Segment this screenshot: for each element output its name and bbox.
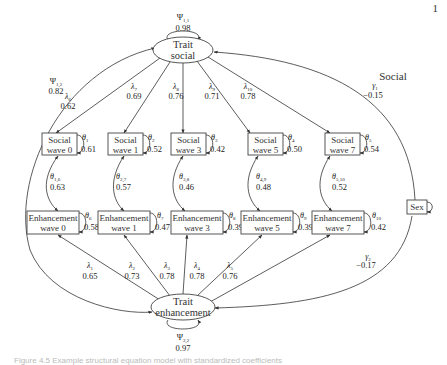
svg-text:Social: Social bbox=[254, 135, 277, 145]
svg-text:θ6: θ6 bbox=[85, 211, 92, 221]
svg-text:θ7: θ7 bbox=[157, 211, 164, 221]
svg-text:θ3: θ3 bbox=[211, 133, 218, 143]
svg-text:Sex: Sex bbox=[410, 202, 424, 212]
svg-text:0.82: 0.82 bbox=[49, 86, 64, 96]
svg-text:Social: Social bbox=[48, 135, 71, 145]
svg-text:λ1: λ1 bbox=[86, 261, 93, 271]
sex-variance-loop bbox=[427, 202, 432, 212]
loading-enh-w3 bbox=[183, 235, 187, 294]
svg-text:θ1: θ1 bbox=[82, 133, 89, 143]
svg-text:0.48: 0.48 bbox=[256, 182, 271, 192]
svg-text:0.63: 0.63 bbox=[50, 182, 65, 192]
svg-text:0.78: 0.78 bbox=[190, 271, 205, 281]
trait-social-node: Ψ1,1 0.98 Trait social bbox=[153, 12, 213, 63]
trait-covariance-label: Ψ1,2 0.82 bbox=[49, 76, 64, 96]
svg-text:λ3: λ3 bbox=[163, 261, 170, 271]
svg-text:wave 1: wave 1 bbox=[113, 145, 139, 155]
svg-text:θ10: θ10 bbox=[372, 211, 381, 221]
sem-diagram: 1 Social Ψ1,1 0.98 Trait so bbox=[0, 0, 447, 365]
svg-text:0.57: 0.57 bbox=[116, 182, 131, 192]
svg-text:0.42: 0.42 bbox=[371, 222, 386, 232]
svg-text:Enhancement: Enhancement bbox=[100, 213, 149, 223]
page-number: 1 bbox=[433, 2, 439, 14]
psi-11-value: 0.98 bbox=[176, 23, 191, 33]
svg-text:0.50: 0.50 bbox=[287, 144, 302, 154]
enhancement-wave-0: Enhancement wave 0 θ6 0.58 λ1 0.65 bbox=[27, 211, 99, 281]
svg-text:0.76: 0.76 bbox=[169, 91, 184, 101]
svg-text:0.71: 0.71 bbox=[205, 91, 220, 101]
svg-text:Enhancement: Enhancement bbox=[173, 213, 222, 223]
svg-text:λ4: λ4 bbox=[193, 261, 200, 271]
svg-text:social: social bbox=[171, 50, 196, 61]
svg-text:θ9: θ9 bbox=[300, 211, 307, 221]
svg-text:0.54: 0.54 bbox=[364, 144, 380, 154]
svg-text:Enhancement: Enhancement bbox=[243, 213, 292, 223]
svg-text:Social: Social bbox=[114, 135, 137, 145]
svg-text:θ8: θ8 bbox=[229, 211, 236, 221]
loading-social-w7 bbox=[208, 57, 330, 133]
gamma-2-value: −0.17 bbox=[356, 260, 376, 270]
svg-text:0.52: 0.52 bbox=[332, 182, 347, 192]
svg-text:0.42: 0.42 bbox=[210, 144, 225, 154]
gamma-1-value: −0.15 bbox=[363, 90, 383, 100]
social-wave-1: Social wave 1 θ2 0.52 λ7 0.69 θ2,7 0.57 bbox=[108, 82, 162, 192]
svg-text:0.78: 0.78 bbox=[241, 91, 256, 101]
svg-text:θ5: θ5 bbox=[365, 133, 372, 143]
social-wave-0: Social wave 0 θ1 0.61 λ6 0.62 θ1,6 0.63 bbox=[42, 92, 96, 192]
svg-text:wave 0: wave 0 bbox=[47, 145, 73, 155]
svg-text:enhancement: enhancement bbox=[155, 307, 210, 318]
trait-enhancement-node: Trait enhancement Ψ2,2 0.97 bbox=[151, 294, 215, 353]
loading-social-w0 bbox=[56, 58, 160, 133]
psi-22-value: 0.97 bbox=[176, 343, 191, 353]
svg-text:0.39: 0.39 bbox=[298, 222, 313, 232]
svg-text:0.58: 0.58 bbox=[84, 222, 99, 232]
sex-node: Sex γ1 −0.15 γ2 −0.17 bbox=[356, 81, 432, 270]
svg-text:θ4: θ4 bbox=[288, 133, 295, 143]
residual-cov-w7 bbox=[320, 156, 332, 211]
svg-text:wave 5: wave 5 bbox=[254, 223, 280, 233]
svg-text:wave 3: wave 3 bbox=[184, 223, 210, 233]
svg-text:λ2: λ2 bbox=[128, 261, 135, 271]
svg-text:Trait: Trait bbox=[173, 39, 193, 50]
svg-text:0.46: 0.46 bbox=[179, 182, 194, 192]
loading-enh-w0 bbox=[58, 235, 160, 300]
svg-text:Trait: Trait bbox=[173, 296, 193, 307]
group-label: Social bbox=[379, 70, 407, 82]
svg-text:0.47: 0.47 bbox=[155, 222, 170, 232]
trait-enhancement-variance-loop bbox=[167, 320, 199, 329]
svg-text:0.61: 0.61 bbox=[81, 144, 96, 154]
svg-text:0.76: 0.76 bbox=[223, 271, 238, 281]
svg-text:wave 5: wave 5 bbox=[253, 145, 279, 155]
svg-text:wave 7: wave 7 bbox=[330, 145, 356, 155]
svg-text:0.69: 0.69 bbox=[127, 91, 142, 101]
svg-text:Social: Social bbox=[177, 135, 200, 145]
svg-text:0.52: 0.52 bbox=[147, 144, 162, 154]
svg-text:0.65: 0.65 bbox=[83, 271, 98, 281]
svg-text:Social: Social bbox=[331, 135, 354, 145]
svg-text:Enhancement: Enhancement bbox=[29, 213, 78, 223]
svg-text:0.62: 0.62 bbox=[61, 101, 76, 111]
svg-text:wave 7: wave 7 bbox=[325, 223, 351, 233]
svg-text:0.78: 0.78 bbox=[160, 271, 175, 281]
svg-text:wave 1: wave 1 bbox=[111, 223, 137, 233]
svg-text:θ2: θ2 bbox=[148, 133, 155, 143]
svg-text:0.73: 0.73 bbox=[125, 271, 140, 281]
figure-caption: Figure 4.5 Example structural equation m… bbox=[14, 356, 282, 365]
svg-text:Enhancement: Enhancement bbox=[314, 213, 363, 223]
svg-text:wave 0: wave 0 bbox=[40, 223, 66, 233]
svg-text:wave 3: wave 3 bbox=[176, 145, 202, 155]
